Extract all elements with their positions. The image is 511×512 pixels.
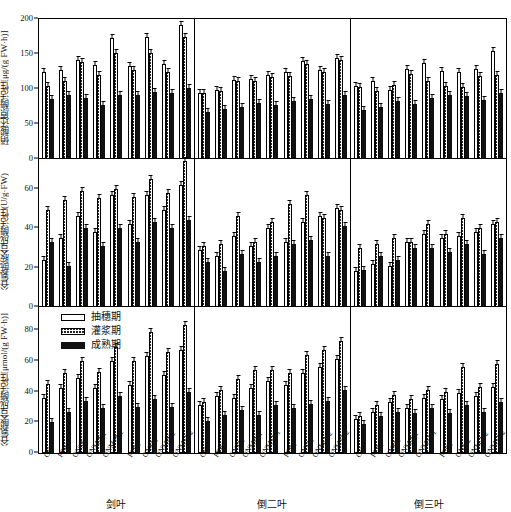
bar-cluster bbox=[212, 159, 229, 307]
x-axis-group-label: 剑叶 bbox=[38, 496, 194, 511]
y-tick-label: 20 bbox=[25, 262, 34, 272]
error-bar bbox=[82, 58, 83, 63]
bar bbox=[206, 262, 210, 307]
bar-cluster bbox=[403, 159, 420, 307]
error-bar bbox=[137, 403, 138, 408]
error-bar bbox=[238, 77, 239, 82]
bar-cluster bbox=[403, 19, 420, 159]
bar-cluster bbox=[281, 307, 298, 453]
error-bar bbox=[306, 60, 307, 65]
bar bbox=[343, 226, 347, 307]
bar-cluster bbox=[39, 159, 56, 307]
error-bar bbox=[164, 60, 165, 65]
x-tick-ONM+N2: ONM+N2 bbox=[177, 452, 194, 496]
error-bar bbox=[112, 357, 113, 362]
error-bar bbox=[337, 355, 338, 360]
panel-nitrate-reductase bbox=[38, 18, 507, 160]
error-bar bbox=[324, 68, 325, 73]
error-bar bbox=[285, 68, 286, 73]
error-bar bbox=[289, 369, 290, 374]
error-bar bbox=[216, 86, 217, 91]
bar-cluster bbox=[437, 19, 454, 159]
error-bar bbox=[328, 397, 329, 402]
bar bbox=[101, 246, 105, 307]
legend-item-maturity: 成熟期 bbox=[61, 339, 121, 351]
error-bar bbox=[501, 234, 502, 239]
bar-cluster bbox=[420, 159, 437, 307]
error-bar bbox=[181, 346, 182, 351]
error-bar bbox=[424, 394, 425, 399]
error-bar bbox=[181, 181, 182, 186]
bar bbox=[482, 100, 486, 160]
error-bar bbox=[43, 394, 44, 399]
error-bar bbox=[116, 185, 117, 190]
error-bar bbox=[168, 68, 169, 73]
x-tick-FFP2: FFP2 bbox=[281, 452, 298, 496]
error-bar bbox=[380, 103, 381, 108]
bar bbox=[240, 107, 244, 160]
error-bar bbox=[216, 252, 217, 257]
bar-cluster bbox=[298, 307, 315, 453]
bar-cluster bbox=[298, 159, 315, 307]
bar-cluster bbox=[385, 19, 402, 159]
bar-group-倒三叶 bbox=[350, 159, 506, 307]
bar bbox=[274, 256, 278, 307]
error-bar bbox=[376, 401, 377, 406]
panel3-y-axis: 020406080 bbox=[0, 306, 38, 452]
bar-cluster bbox=[73, 159, 90, 307]
bar-cluster bbox=[351, 307, 368, 453]
bar bbox=[362, 110, 366, 159]
error-bar bbox=[268, 377, 269, 382]
bar-group-倒三叶 bbox=[350, 19, 506, 159]
error-bar bbox=[82, 187, 83, 192]
bar bbox=[170, 228, 174, 307]
error-bar bbox=[129, 220, 130, 225]
bar-cluster bbox=[333, 159, 350, 307]
bar-cluster bbox=[39, 19, 56, 159]
error-bar bbox=[484, 408, 485, 413]
bar-cluster bbox=[420, 19, 437, 159]
bar bbox=[430, 98, 434, 159]
error-bar bbox=[398, 97, 399, 102]
error-bar bbox=[293, 240, 294, 245]
bar-cluster bbox=[160, 159, 177, 307]
x-tick-ONM2: ONM2 bbox=[455, 452, 472, 496]
bar-cluster bbox=[351, 19, 368, 159]
bar bbox=[362, 270, 366, 307]
error-bar bbox=[129, 62, 130, 67]
error-bar bbox=[328, 100, 329, 105]
y-tick-label: 50 bbox=[25, 118, 34, 128]
x-tick-CK: CK bbox=[351, 452, 368, 496]
y-tick-label: 20 bbox=[25, 416, 34, 426]
bar-cluster bbox=[247, 19, 264, 159]
error-bar bbox=[445, 82, 446, 87]
bar bbox=[67, 95, 71, 159]
bar bbox=[379, 256, 383, 307]
bar bbox=[118, 228, 122, 307]
error-bar bbox=[68, 91, 69, 96]
bar-cluster bbox=[142, 19, 159, 159]
bar bbox=[257, 103, 261, 159]
error-bar bbox=[103, 404, 104, 409]
error-bar bbox=[172, 224, 173, 229]
error-bar bbox=[428, 220, 429, 225]
error-bar bbox=[238, 375, 239, 380]
x-tick-FFP1: FFP1 bbox=[212, 452, 229, 496]
error-bar bbox=[78, 212, 79, 217]
bar bbox=[101, 105, 105, 159]
error-bar bbox=[216, 392, 217, 397]
error-bar bbox=[445, 230, 446, 235]
bar bbox=[84, 228, 88, 307]
bar-cluster bbox=[351, 159, 368, 307]
legend-item-heading: 抽穗期 bbox=[61, 311, 121, 323]
error-bar bbox=[199, 401, 200, 406]
figure-bar-chart: 硝酸还原酶活性[μg/(g FW·h)] 050100150200 谷氨酰胺合成… bbox=[0, 0, 511, 512]
error-bar bbox=[199, 246, 200, 251]
error-bar bbox=[133, 66, 134, 71]
error-bar bbox=[203, 242, 204, 247]
bar bbox=[309, 99, 313, 159]
bar-cluster bbox=[385, 159, 402, 307]
error-bar bbox=[64, 196, 65, 201]
x-tick-ONM1: ONM1 bbox=[385, 452, 402, 496]
bar bbox=[379, 107, 383, 160]
